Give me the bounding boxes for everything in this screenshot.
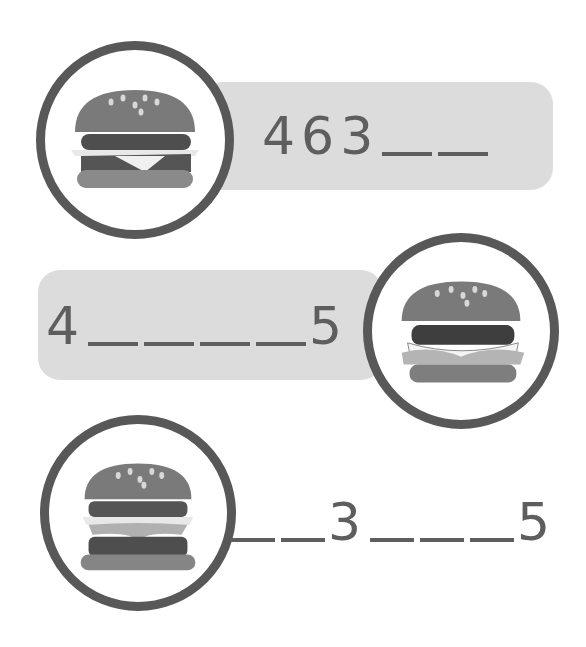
answer-blank[interactable] <box>88 342 138 346</box>
answer-blank[interactable] <box>420 538 464 542</box>
digit: 3 <box>328 496 367 548</box>
digit: 4 <box>262 110 301 162</box>
row-2-ring <box>363 233 559 429</box>
answer-blank[interactable] <box>438 152 488 156</box>
answer-blank[interactable] <box>200 342 250 346</box>
double-burger-icon <box>49 424 227 602</box>
digit: 5 <box>309 300 348 352</box>
answer-blank[interactable] <box>256 342 306 346</box>
digit: 6 <box>301 110 340 162</box>
answer-blank[interactable] <box>370 538 414 542</box>
answer-blank[interactable] <box>382 152 432 156</box>
answer-blank[interactable] <box>231 538 275 542</box>
digit: 4 <box>46 300 85 352</box>
digit: 5 <box>517 496 556 548</box>
row-1-sequence: 4 6 3 <box>262 110 491 162</box>
burger-icon <box>45 50 225 230</box>
row-1-ring <box>36 41 234 239</box>
answer-blank[interactable] <box>470 538 514 542</box>
row-3-ring <box>40 415 236 611</box>
digit: 3 <box>340 110 379 162</box>
answer-blank[interactable] <box>144 342 194 346</box>
row-2-sequence: 4 5 <box>46 300 348 352</box>
answer-blank[interactable] <box>281 538 325 542</box>
cheeseburger-icon <box>372 242 550 420</box>
row-3-sequence: 3 5 <box>228 496 556 548</box>
